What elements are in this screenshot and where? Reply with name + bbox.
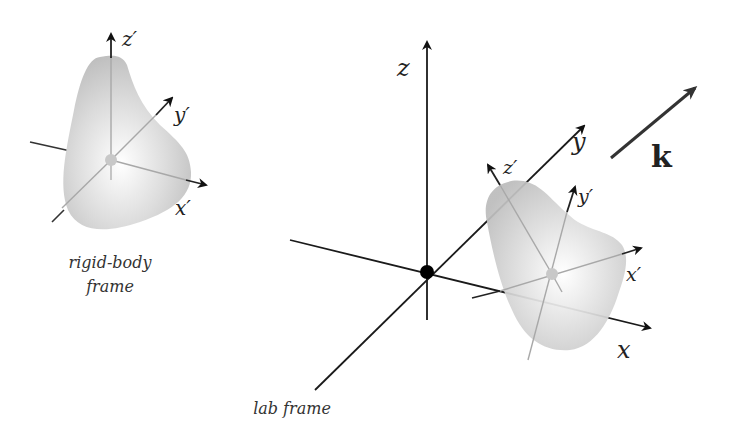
body1-y-axis-arrow bbox=[156, 98, 172, 115]
lab-frame-caption: lab frame bbox=[253, 399, 331, 418]
lab-rigid-body-shape bbox=[486, 181, 626, 351]
body2-center-of-mass bbox=[546, 268, 558, 280]
k-label: k bbox=[651, 139, 673, 174]
rigid-body-shape bbox=[63, 56, 191, 230]
body1-y-axis-tail bbox=[52, 210, 64, 222]
body2-y-label: y′ bbox=[577, 185, 594, 207]
rigid-body-caption-line2: frame bbox=[85, 277, 134, 296]
body2-z-axis-arrow bbox=[488, 165, 500, 185]
body2-z-label: z′ bbox=[502, 156, 518, 178]
body1-y-label: y′ bbox=[173, 103, 190, 127]
lab-y-label: y bbox=[571, 128, 586, 156]
diagram-canvas: z′ y′ x′ rigid-body frame z y x z′ y′ x′… bbox=[0, 0, 732, 433]
body1-center-of-mass bbox=[105, 154, 117, 166]
rigid-body-frame-group: z′ y′ x′ rigid-body frame bbox=[30, 27, 206, 296]
rigid-body-caption-line1: rigid-body bbox=[69, 253, 153, 272]
body2-y-axis-arrow bbox=[567, 187, 575, 212]
wave-vector-group: k bbox=[611, 88, 695, 174]
lab-z-label: z bbox=[396, 54, 410, 82]
body1-z-label: z′ bbox=[121, 27, 138, 51]
body2-x-axis-arrow bbox=[622, 248, 641, 254]
lab-origin bbox=[420, 265, 434, 279]
body2-x-axis-tail bbox=[472, 291, 500, 298]
lab-x-label: x bbox=[617, 336, 631, 364]
body2-x-label: x′ bbox=[626, 263, 642, 285]
body1-x-label: x′ bbox=[175, 196, 191, 220]
lab-frame-group: z y x z′ y′ x′ lab frame bbox=[253, 42, 650, 418]
